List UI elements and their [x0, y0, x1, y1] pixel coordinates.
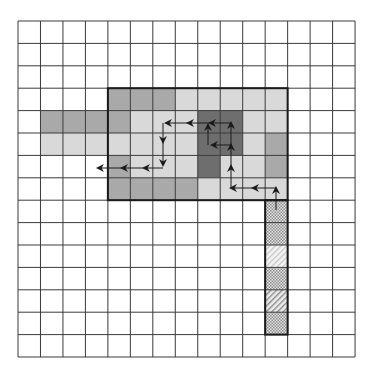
grid-cell-light [175, 155, 197, 177]
grid-cell-light [153, 133, 175, 155]
hatched-cell-crosshatch [265, 267, 287, 289]
grid-cell-light [265, 111, 287, 133]
grid-cell-light [243, 88, 265, 110]
grid-cell-light [175, 88, 197, 110]
grid-cell-mid [130, 178, 152, 200]
grid-cell-light [220, 88, 242, 110]
shaded-cells [40, 88, 287, 200]
grid-cell-mid [63, 111, 85, 133]
grid-cell-light [243, 178, 265, 200]
grid-cell-mid [265, 155, 287, 177]
hatched-cell-crosshatch [265, 312, 287, 334]
hatched-cell-diagonal-light [265, 245, 287, 267]
grid-cell-light [63, 133, 85, 155]
grid-cell-light [130, 155, 152, 177]
grid-cell-light [175, 133, 197, 155]
hatched-cell-crosshatch [265, 223, 287, 245]
grid-cell-light [130, 133, 152, 155]
grid-cell-light [153, 111, 175, 133]
grid-cell-light [198, 178, 220, 200]
grid-cell-light [130, 111, 152, 133]
grid-cell-light [40, 133, 62, 155]
grid-cell-light [198, 88, 220, 110]
grid-cell-mid [85, 111, 107, 133]
grid-cell-light [265, 88, 287, 110]
grid-cell-mid [108, 155, 130, 177]
grid-cell-dark [198, 111, 220, 133]
grid-cell-mid [265, 133, 287, 155]
hatched-cell-diagonal [265, 290, 287, 312]
grid-cell-mid [108, 88, 130, 110]
grid-cell-mid [108, 111, 130, 133]
grid-cell-light [243, 155, 265, 177]
grid-cell-light [108, 133, 130, 155]
grid-cell-light [153, 155, 175, 177]
grid-cell-light [243, 133, 265, 155]
grid-cell-light [85, 133, 107, 155]
grid-cell-mid [130, 88, 152, 110]
grid-path-diagram [0, 0, 372, 375]
grid-cell-mid [175, 178, 197, 200]
grid-cell-dark [198, 155, 220, 177]
grid-cell-mid [108, 178, 130, 200]
grid-cell-mid [153, 178, 175, 200]
grid-cell-light [175, 111, 197, 133]
grid-cell-mid [153, 88, 175, 110]
grid-cell-dark [198, 133, 220, 155]
grid-cell-light [243, 111, 265, 133]
grid-cell-mid [40, 111, 62, 133]
